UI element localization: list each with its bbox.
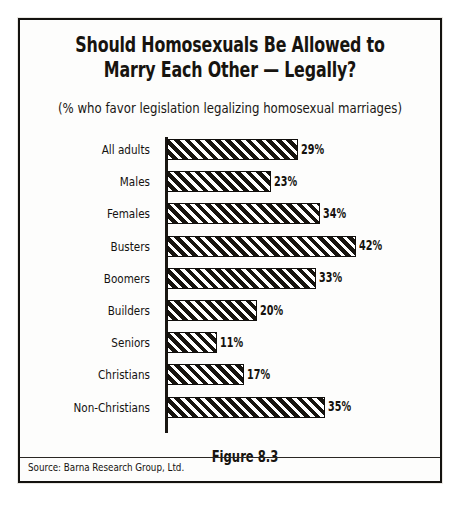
bar-value-label: 29% (301, 142, 324, 157)
chart-title-line-2: Marry Each Other — Legally? (49, 58, 410, 83)
chart-title-line-1: Should Homosexuals Be Allowed to (49, 33, 410, 58)
bar-row: Males23% (20, 171, 444, 193)
bar-category-label: Busters (12, 239, 150, 254)
bar-category-label: Builders (12, 303, 150, 318)
chart-subtitle: (% who favor legislation legalizing homo… (41, 100, 419, 116)
bar-row: All adults29% (20, 139, 444, 161)
bar (167, 300, 257, 321)
bar-row: Busters42% (20, 236, 444, 258)
bar-value-label: 17% (247, 367, 270, 382)
bar-row: Seniors11% (20, 332, 444, 354)
bar-category-label: Females (12, 206, 150, 221)
bar (167, 397, 325, 418)
bar (167, 236, 356, 257)
bar-row: Builders20% (20, 300, 444, 322)
bar-category-label: Boomers (12, 271, 150, 286)
bar-row: Boomers33% (20, 268, 444, 290)
bar-value-label: 34% (323, 206, 346, 221)
bar (167, 332, 217, 353)
figure-frame: Should Homosexuals Be Allowed to Marry E… (18, 18, 442, 483)
bar (167, 139, 298, 160)
source-divider (20, 457, 440, 458)
bar-category-label: Non-Christians (12, 400, 150, 415)
figure-root: Should Homosexuals Be Allowed to Marry E… (0, 0, 464, 508)
bar-category-label: Seniors (12, 335, 150, 350)
bar-category-label: Males (12, 174, 150, 189)
bar-row: Christians17% (20, 364, 444, 386)
bar-category-label: All adults (12, 142, 150, 157)
chart-title: Should Homosexuals Be Allowed to Marry E… (20, 33, 440, 83)
bar (167, 171, 271, 192)
bar-category-label: Christians (12, 367, 150, 382)
source-note: Source: Barna Research Group, Ltd. (28, 461, 184, 473)
bar (167, 364, 244, 385)
bar-row: Females34% (20, 203, 444, 225)
bar-row: Non-Christians35% (20, 397, 444, 419)
bar-chart-plot: All adults29%Males23%Females34%Busters42… (20, 133, 444, 435)
bar (167, 268, 316, 289)
bar-value-label: 42% (359, 238, 382, 253)
bar-value-label: 23% (274, 174, 297, 189)
bar-value-label: 20% (260, 303, 283, 318)
bar-value-label: 33% (319, 270, 342, 285)
bar (167, 203, 320, 224)
bar-value-label: 35% (328, 399, 351, 414)
bar-value-label: 11% (220, 335, 243, 350)
